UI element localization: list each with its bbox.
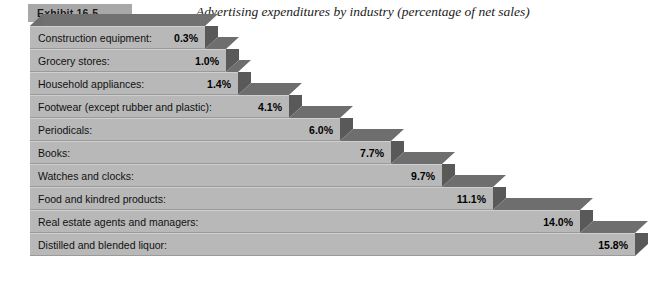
bar-face: Books:7.7% xyxy=(30,141,391,164)
bar-category-label: Food and kindred products: xyxy=(38,193,166,205)
bar-value-label: 1.0% xyxy=(195,55,219,67)
bar-category-label: Grocery stores: xyxy=(38,55,110,67)
bar-face: Construction equipment:0.3% xyxy=(30,26,205,49)
bar-category-label: Footwear (except rubber and plastic): xyxy=(38,101,212,113)
bar-face: Periodicals:6.0% xyxy=(30,118,340,141)
bar-value-label: 0.3% xyxy=(174,32,198,44)
bar-top-face xyxy=(30,14,218,26)
bar-category-label: Household appliances: xyxy=(38,78,144,90)
bar-top-face xyxy=(493,198,593,210)
bar-value-label: 9.7% xyxy=(411,170,435,182)
chart-title: Advertising expenditures by industry (pe… xyxy=(196,4,530,20)
bar-category-label: Watches and clocks: xyxy=(38,170,134,182)
bar-chart-plot: Construction equipment:0.3%Grocery store… xyxy=(0,26,660,284)
bar-value-label: 15.8% xyxy=(598,239,628,251)
bar-value-label: 11.1% xyxy=(457,193,486,205)
bar-value-label: 4.1% xyxy=(258,101,282,113)
bar-face: Grocery stores:1.0% xyxy=(30,49,226,72)
bar-face: Distilled and blended liquor:15.8% xyxy=(30,233,635,256)
bar-face: Real estate agents and managers:14.0% xyxy=(30,210,580,233)
bar-value-label: 14.0% xyxy=(543,216,573,228)
bar-face: Watches and clocks:9.7% xyxy=(30,164,442,187)
bar-category-label: Construction equipment: xyxy=(38,32,152,44)
bar-face: Food and kindred products:11.1% xyxy=(30,187,493,210)
bar-category-label: Distilled and blended liquor: xyxy=(38,239,167,251)
bar-side-face xyxy=(635,233,648,256)
bar-face: Footwear (except rubber and plastic):4.1… xyxy=(30,95,289,118)
bar-category-label: Periodicals: xyxy=(38,124,92,136)
exhibit-chart: Exhibit 16-5 Advertising expenditures by… xyxy=(0,0,660,290)
bar-category-label: Books: xyxy=(38,147,70,159)
bar-value-label: 7.7% xyxy=(360,147,384,159)
bar-face: Household appliances:1.4% xyxy=(30,72,238,95)
bar-category-label: Real estate agents and managers: xyxy=(38,216,199,228)
bar-value-label: 6.0% xyxy=(309,124,333,136)
bar-value-label: 1.4% xyxy=(207,78,231,90)
